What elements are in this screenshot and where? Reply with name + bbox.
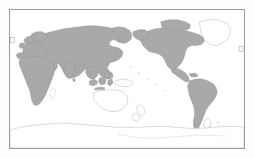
map-frame [9, 9, 245, 149]
region-iceland-marker [10, 38, 14, 43]
pacific-island-4 [130, 66, 131, 67]
pacific-island-3 [155, 84, 156, 85]
world-map-figure [0, 0, 254, 158]
edge-marker-box [239, 46, 243, 51]
pacific-island-2 [147, 78, 148, 79]
map-canvas [10, 10, 244, 148]
pacific-island-5 [164, 90, 165, 91]
pacific-island-1 [138, 72, 140, 74]
south-georgia-island [217, 122, 219, 124]
